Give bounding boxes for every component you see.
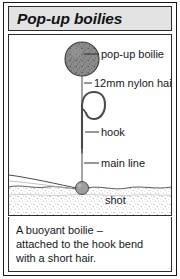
caption-line-3: with a short hair. (16, 251, 164, 265)
label-shot: shot (105, 195, 126, 206)
label-pop-up-boilie: pop-up boilie (101, 49, 164, 60)
hook-illustration (82, 92, 105, 153)
rig-diagram-illustration (9, 35, 171, 215)
figure-title: Pop-up boilies (9, 10, 122, 28)
lakebed (9, 183, 171, 215)
caption-line-1: A buoyant boilie – (16, 223, 164, 237)
label-main-line: main line (101, 158, 145, 169)
figure-caption-panel: A buoyant boilie – attached to the hook … (8, 217, 172, 272)
caption-line-2: attached to the hook bend (16, 237, 164, 251)
label-nylon-hair: 12mm nylon hair (94, 78, 172, 89)
pop-up-boilies-figure: Pop-up boilies (0, 0, 180, 279)
label-hook: hook (101, 127, 125, 138)
shot-shape (76, 182, 89, 195)
diagram-panel: pop-up boilie 12mm nylon hair hook main … (8, 34, 172, 216)
figure-title-bar: Pop-up boilies (8, 6, 172, 31)
pop-up-boilie-shape (65, 42, 99, 76)
